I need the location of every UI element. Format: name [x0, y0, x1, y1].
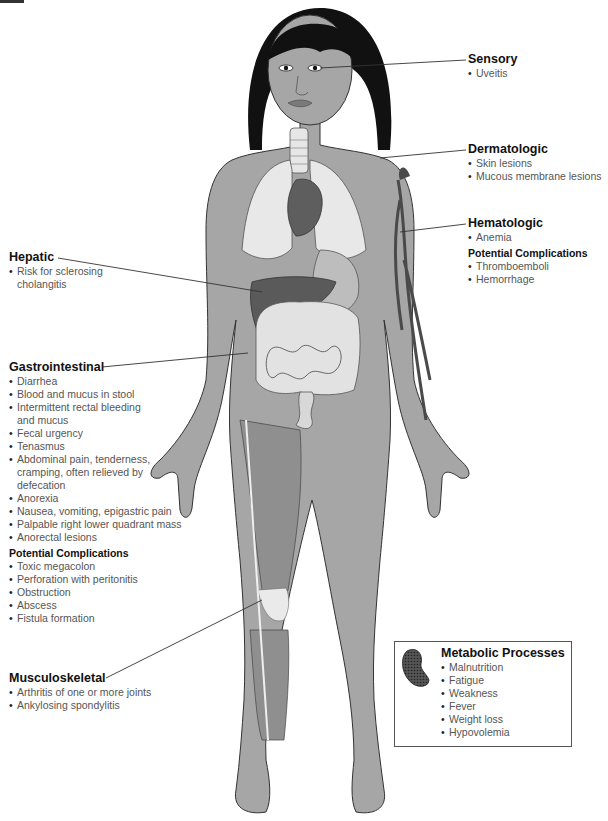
gi-complications-title: Potential Complications [9, 547, 199, 560]
gi-item: Nausea, vomiting, epigastric pain [9, 505, 199, 518]
gi-complication: Obstruction [9, 586, 199, 599]
metabolic-item: Weight loss [441, 713, 565, 726]
metabolic-item: Weakness [441, 687, 565, 700]
metabolic-item: Fatigue [441, 674, 565, 687]
metabolic-item: Fever [441, 700, 565, 713]
gi-item: Anorexia [9, 492, 199, 505]
hepatic-title: Hepatic [9, 250, 119, 265]
sensory-item: Uveitis [468, 67, 517, 80]
gi-item: Blood and mucus in stool [9, 388, 199, 401]
gi-item: Fecal urgency [9, 427, 199, 440]
label-hepatic: Hepatic Risk for sclerosing cholangitis [9, 250, 119, 291]
gi-item: Intermittent rectal bleeding and mucus [9, 401, 157, 427]
hematologic-item: Anemia [468, 231, 588, 244]
metabolic-item: Malnutrition [441, 661, 565, 674]
hematologic-complication: Hemorrhage [468, 273, 588, 286]
musculoskeletal-item: Ankylosing spondylitis [9, 699, 151, 712]
gi-item: Abdominal pain, tenderness, cramping, of… [9, 453, 157, 492]
musculoskeletal-title: Musculoskeletal [9, 671, 151, 686]
metabolic-item: Hypovolemia [441, 726, 565, 739]
gi-complication: Perforation with peritonitis [9, 573, 199, 586]
hematologic-complication: Thromboemboli [468, 260, 588, 273]
dermatologic-line [380, 150, 466, 158]
gi-item: Diarrhea [9, 375, 199, 388]
metabolic-box: Metabolic Processes Malnutrition Fatigue… [394, 641, 572, 747]
gi-item: Tenasmus [9, 440, 199, 453]
musculoskeletal-item: Arthritis of one or more joints [9, 686, 151, 699]
gi-complication: Abscess [9, 599, 199, 612]
label-sensory: Sensory Uveitis [468, 52, 517, 80]
label-musculoskeletal: Musculoskeletal Arthritis of one or more… [9, 671, 151, 712]
gi-item: Anorectal lesions [9, 531, 199, 544]
cell-icon [401, 648, 431, 688]
hepatic-item: Risk for sclerosing cholangitis [9, 265, 119, 291]
gastrointestinal-title: Gastrointestinal [9, 360, 199, 375]
hematologic-complications-title: Potential Complications [468, 247, 588, 260]
label-gastrointestinal: Gastrointestinal Diarrhea Blood and mucu… [9, 360, 199, 625]
gi-complication: Fistula formation [9, 612, 199, 625]
label-hematologic: Hematologic Anemia Potential Complicatio… [468, 216, 588, 286]
dermatologic-item: Skin lesions [468, 157, 601, 170]
gi-complication: Toxic megacolon [9, 560, 199, 573]
gi-item: Palpable right lower quadrant mass [9, 518, 199, 531]
sensory-title: Sensory [468, 52, 517, 67]
label-metabolic: Metabolic Processes Malnutrition Fatigue… [441, 646, 565, 739]
dermatologic-item: Mucous membrane lesions [468, 170, 601, 183]
trachea [290, 128, 308, 173]
hematologic-title: Hematologic [468, 216, 588, 231]
label-dermatologic: Dermatologic Skin lesions Mucous membran… [468, 142, 601, 183]
metabolic-title: Metabolic Processes [441, 646, 565, 661]
dermatologic-title: Dermatologic [468, 142, 601, 157]
